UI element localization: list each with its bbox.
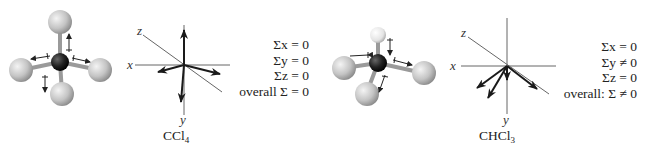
chcl3-panel: x z y Σx = 0 Σy ≠ 0 Σz = 0 overall: Σ ≠ … xyxy=(325,0,649,157)
caption-subscript: 4 xyxy=(185,135,190,145)
ccl4-bond-vectors xyxy=(158,30,220,102)
carbon-atom xyxy=(369,54,387,72)
sum-z-equation: Σz = 0 xyxy=(239,68,309,84)
chlorine-atom-bottom xyxy=(355,82,379,106)
sum-y-equation: Σy = 0 xyxy=(239,53,309,69)
overall-sum-equation: overall: Σ ≠ 0 xyxy=(564,86,637,102)
sum-z-equation: Σz = 0 xyxy=(564,70,637,86)
chlorine-atom-bottom xyxy=(50,82,74,106)
chcl3-caption: CHCl3 xyxy=(479,128,515,145)
sum-x-equation: Σx = 0 xyxy=(564,39,637,55)
axis-label-x: x xyxy=(126,57,133,72)
chlorine-atom-right xyxy=(88,58,112,82)
ccl4-caption: CCl4 xyxy=(163,128,189,145)
carbon-atom xyxy=(51,53,69,71)
caption-main: CCl xyxy=(163,128,185,143)
axis-label-z: z xyxy=(460,25,466,40)
sum-x-equation: Σx = 0 xyxy=(239,37,309,53)
chlorine-atom-right xyxy=(412,61,436,85)
ccl4-panel: x z y Σx = 0 Σy = 0 Σz = 0 overall Σ = 0… xyxy=(0,0,325,157)
chlorine-atom-left xyxy=(332,56,356,80)
chcl3-sum-equations: Σx = 0 Σy ≠ 0 Σz = 0 overall: Σ ≠ 0 xyxy=(564,39,637,101)
axis-label-x: x xyxy=(449,58,456,73)
axis-label-z: z xyxy=(136,23,142,38)
caption-subscript: 3 xyxy=(511,135,516,145)
ccl4-axes xyxy=(135,25,230,115)
hydrogen-atom xyxy=(370,27,386,43)
chlorine-atom-top xyxy=(48,10,72,34)
ccl4-sum-equations: Σx = 0 Σy = 0 Σz = 0 overall Σ = 0 xyxy=(239,37,309,99)
chlorine-atom-left xyxy=(9,58,33,82)
axis-label-y: y xyxy=(178,112,186,127)
overall-sum-equation: overall Σ = 0 xyxy=(239,84,309,100)
caption-main: CHCl xyxy=(479,128,511,143)
axis-label-y: y xyxy=(501,112,509,127)
sum-y-equation: Σy ≠ 0 xyxy=(564,55,637,71)
